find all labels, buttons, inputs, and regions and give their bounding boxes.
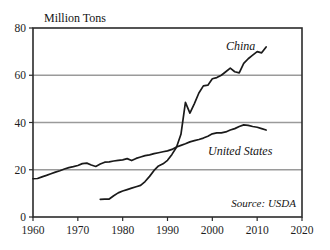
chart-figure: Million Tons China United States Source:… [0, 0, 330, 250]
y-tick-label-40: 40 [15, 117, 27, 129]
y-tick-label-60: 60 [15, 69, 27, 81]
x-tick-label-2000: 2000 [201, 224, 224, 236]
source-attribution: Source: USDA [231, 197, 296, 209]
series-label-united-states: United States [208, 144, 273, 158]
series-label-china: China [226, 39, 255, 53]
x-tick-label-1990: 1990 [156, 224, 179, 236]
y-tick-label-80: 80 [15, 22, 27, 34]
y-tick-label-0: 0 [20, 211, 26, 223]
chart-background [0, 0, 330, 250]
x-tick-label-1980: 1980 [111, 224, 134, 236]
line-chart: Million Tons China United States Source:… [0, 0, 330, 250]
x-tick-label-1970: 1970 [66, 224, 89, 236]
x-tick-label-2020: 2020 [291, 224, 314, 236]
x-tick-label-2010: 2010 [246, 224, 269, 236]
x-tick-label-1960: 1960 [22, 224, 45, 236]
y-tick-label-20: 20 [15, 164, 27, 176]
chart-title: Million Tons [44, 11, 106, 25]
